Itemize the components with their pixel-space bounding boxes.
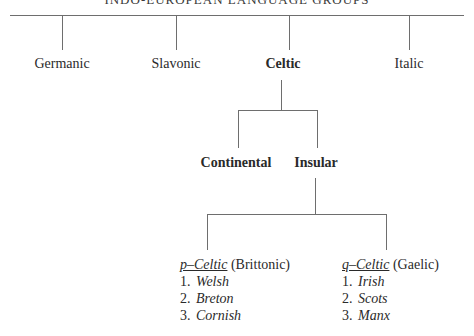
language-list: 1.Irish 2.Scots 3.Manx: [342, 273, 439, 324]
celtic-down-line: [281, 80, 282, 110]
slavonic-connector: [176, 15, 177, 50]
node-insular: Insular: [294, 155, 338, 171]
insular-connector: [317, 110, 318, 148]
group-name: p–Celtic: [180, 257, 227, 272]
group-heading: p–Celtic (Brittonic): [180, 256, 290, 273]
root-horizontal-line: [10, 15, 464, 16]
node-slavonic: Slavonic: [152, 56, 201, 72]
celtic-split-line: [238, 110, 318, 111]
continental-connector: [238, 110, 239, 148]
q-celtic-connector: [386, 214, 387, 250]
node-celtic: Celtic: [266, 56, 301, 72]
group-q-celtic: q–Celtic (Gaelic) 1.Irish 2.Scots 3.Manx: [342, 256, 439, 324]
group-p-celtic: p–Celtic (Brittonic) 1.Welsh 2.Breton 3.…: [180, 256, 290, 324]
insular-split-line: [207, 214, 387, 215]
group-heading: q–Celtic (Gaelic): [342, 256, 439, 273]
group-name: q–Celtic: [342, 257, 389, 272]
list-item: 1.Irish: [342, 273, 439, 290]
node-italic: Italic: [395, 56, 424, 72]
list-item: 2.Scots: [342, 290, 439, 307]
italic-connector: [409, 15, 410, 50]
insular-down-line: [315, 178, 316, 214]
list-item: 2.Breton: [180, 290, 290, 307]
list-item: 3.Cornish: [180, 307, 290, 324]
list-item: 1.Welsh: [180, 273, 290, 290]
group-alt-name: (Brittonic): [231, 257, 290, 272]
language-list: 1.Welsh 2.Breton 3.Cornish: [180, 273, 290, 324]
p-celtic-connector: [207, 214, 208, 250]
node-continental: Continental: [201, 155, 272, 171]
germanic-connector: [62, 15, 63, 50]
node-germanic: Germanic: [34, 56, 89, 72]
celtic-connector: [289, 15, 290, 50]
list-item: 3.Manx: [342, 307, 439, 324]
group-alt-name: (Gaelic): [393, 257, 439, 272]
diagram-title: INDO-EUROPEAN LANGUAGE GROUPS: [0, 0, 474, 8]
